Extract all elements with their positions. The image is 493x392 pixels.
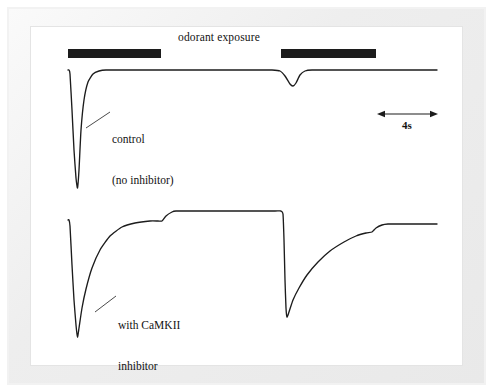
leader-line-control (86, 112, 110, 128)
trace-canvas (0, 0, 493, 392)
annotation-inhibitor: with CaMKII inhibitor (118, 292, 180, 392)
scalebar-arrow-left-icon (377, 111, 385, 117)
figure-root: odorant exposure control (no inhibitor) … (0, 0, 493, 392)
scalebar-label: 4s (402, 119, 412, 132)
annotation-control-line1: control (112, 133, 174, 147)
annotation-control-line2: (no inhibitor) (112, 174, 174, 188)
scalebar-group (377, 111, 438, 117)
leader-line-inhibitor (95, 296, 116, 312)
scalebar-arrow-right-icon (430, 111, 438, 117)
annotation-inhibitor-line2: inhibitor (118, 360, 180, 374)
chart-title: odorant exposure (178, 31, 260, 45)
annotation-control: control (no inhibitor) (112, 106, 174, 215)
annotation-inhibitor-line1: with CaMKII (118, 319, 180, 333)
